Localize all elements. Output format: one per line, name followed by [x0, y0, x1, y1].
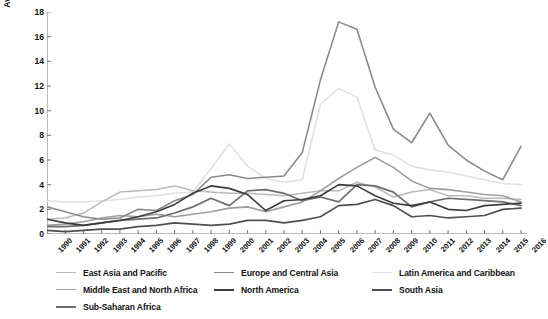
- legend-swatch-icon: [214, 272, 234, 273]
- legend-label: North America: [241, 285, 299, 295]
- series-line-middle-east-and-north-africa: [47, 158, 521, 226]
- x-tick-label: 2003: [293, 236, 311, 254]
- y-tick-label: 4: [26, 181, 44, 189]
- y-tick-label: 10: [26, 107, 44, 115]
- legend-swatch-icon: [372, 272, 392, 273]
- x-tick-label: 2016: [530, 236, 548, 254]
- x-tick-label: 2000: [238, 236, 256, 254]
- x-tick-label: 2009: [402, 236, 420, 254]
- legend-item-latin-america-and-caribbean[interactable]: Latin America and Caribbean: [372, 266, 515, 279]
- x-tick-label: 2014: [493, 236, 511, 254]
- legend-label: South Asia: [399, 285, 443, 295]
- legend-swatch-icon: [56, 272, 76, 273]
- x-tick-label: 2015: [512, 236, 530, 254]
- legend-swatch-icon: [372, 289, 392, 291]
- x-tick-label: 1998: [202, 236, 220, 254]
- legend-item-north-america[interactable]: North America: [214, 283, 299, 296]
- x-tick-label: 1996: [165, 236, 183, 254]
- x-tick-label: 2004: [311, 236, 329, 254]
- x-tick-label: 1994: [129, 236, 147, 254]
- legend-item-south-asia[interactable]: South Asia: [372, 283, 443, 296]
- x-tick-label: 2010: [421, 236, 439, 254]
- y-axis-title: Average share of GDP from FDI net inflow…: [0, 0, 15, 32]
- legend-swatch-icon: [214, 289, 234, 291]
- y-tick-label: 14: [26, 57, 44, 65]
- legend-label: Europe and Central Asia: [241, 268, 338, 278]
- line-chart-svg: [47, 12, 527, 234]
- y-tick-label: 18: [26, 8, 44, 16]
- series-line-north-america: [47, 185, 521, 226]
- x-tick-label: 1991: [74, 236, 92, 254]
- y-tick-label: 12: [26, 82, 44, 90]
- y-tick-label: 8: [26, 131, 44, 139]
- x-tick-label: 1999: [220, 236, 238, 254]
- y-tick-label: 16: [26, 33, 44, 41]
- legend-item-sub-saharan-africa[interactable]: Sub-Saharan Africa: [56, 300, 161, 313]
- x-tick-label: 1992: [92, 236, 110, 254]
- x-tick-label: 1990: [56, 236, 74, 254]
- y-tick-label: 6: [26, 156, 44, 164]
- plot-area: [47, 12, 527, 234]
- chart-legend: East Asia and PacificEurope and Central …: [56, 266, 528, 314]
- x-tick-label: 2008: [384, 236, 402, 254]
- legend-item-east-asia-and-pacific[interactable]: East Asia and Pacific: [56, 266, 167, 279]
- legend-swatch-icon: [56, 289, 76, 290]
- legend-item-middle-east-and-north-africa[interactable]: Middle East and North Africa: [56, 283, 197, 296]
- x-tick-label: 2007: [366, 236, 384, 254]
- legend-label: Middle East and North Africa: [83, 285, 197, 295]
- x-tick-label: 2011: [439, 236, 457, 254]
- y-tick-label: 2: [26, 205, 44, 213]
- x-tick-label: 2012: [457, 236, 475, 254]
- legend-label: Latin America and Caribbean: [399, 268, 515, 278]
- x-tick-label: 1995: [147, 236, 165, 254]
- legend-item-europe-and-central-asia[interactable]: Europe and Central Asia: [214, 266, 338, 279]
- x-tick-marks: [47, 230, 521, 234]
- series-line-latin-america-and-caribbean: [47, 88, 521, 201]
- x-tick-label: 2013: [475, 236, 493, 254]
- x-tick-label: 2001: [256, 236, 274, 254]
- x-tick-label: 1997: [184, 236, 202, 254]
- x-tick-label: 2005: [329, 236, 347, 254]
- legend-label: Sub-Saharan Africa: [83, 302, 161, 312]
- legend-label: East Asia and Pacific: [83, 268, 167, 278]
- x-tick-label: 2002: [275, 236, 293, 254]
- y-axis-tick-labels: 024681012141618: [22, 12, 44, 234]
- legend-swatch-icon: [56, 306, 76, 308]
- x-tick-label: 2006: [348, 236, 366, 254]
- x-tick-label: 1993: [111, 236, 129, 254]
